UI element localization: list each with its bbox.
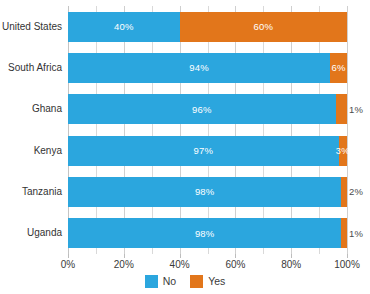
y-axis-label: Kenya [34, 136, 62, 166]
bar-segment-yes[interactable]: 2% [341, 177, 347, 207]
bar-row[interactable]: 94%6% [68, 53, 347, 83]
bar-segment-yes[interactable]: 60% [180, 12, 347, 42]
bar-row[interactable]: 97%3% [68, 136, 347, 166]
x-axis-tick-label: 60% [225, 259, 245, 270]
x-axis-tick [124, 254, 125, 258]
chart-legend: NoYes [0, 275, 370, 288]
bar-row[interactable]: 98%1% [68, 218, 347, 248]
bar-value-label: 1% [349, 229, 363, 239]
x-axis-tick-label: 0% [61, 259, 75, 270]
x-axis-tick [235, 254, 236, 258]
legend-item[interactable]: Yes [190, 275, 225, 288]
legend-swatch-icon [145, 275, 158, 288]
bar-value-label: 97% [194, 146, 214, 156]
plot-area: 40%60%94%6%96%1%97%3%98%2%98%1% [68, 6, 347, 254]
bar-value-label: 98% [195, 187, 215, 197]
bar-value-label: 98% [195, 229, 215, 239]
bar-value-label: 2% [349, 187, 363, 197]
x-axis-tick-label: 20% [114, 259, 134, 270]
bar-segment-no[interactable]: 96% [68, 94, 336, 124]
bar-segment-yes[interactable]: 6% [330, 53, 347, 83]
y-axis-label: Tanzania [22, 177, 62, 207]
bar-value-label: 3% [336, 146, 350, 156]
bar-segment-no[interactable]: 97% [68, 136, 339, 166]
y-axis-label: Uganda [27, 218, 62, 248]
bar-segment-no[interactable]: 98% [68, 218, 341, 248]
bar-row[interactable]: 40%60% [68, 12, 347, 42]
bar-row[interactable]: 96%1% [68, 94, 347, 124]
bar-value-label: 94% [189, 63, 209, 73]
y-axis-label: Ghana [32, 94, 62, 124]
x-axis: 0%20%40%60%80%100% [68, 254, 347, 274]
bar-segment-yes[interactable]: 1% [341, 218, 347, 248]
bar-segment-yes[interactable]: 3% [339, 136, 347, 166]
legend-label: Yes [208, 276, 225, 287]
x-axis-tick-label: 80% [281, 259, 301, 270]
bar-value-label: 40% [114, 22, 134, 32]
y-axis-category-labels: United StatesSouth AfricaGhanaKenyaTanza… [0, 6, 62, 254]
x-axis-tick-label: 40% [170, 259, 190, 270]
bar-segment-no[interactable]: 98% [68, 177, 341, 207]
legend-label: No [163, 276, 176, 287]
y-axis-label: United States [2, 12, 62, 42]
x-axis-tick [291, 254, 292, 258]
bar-segment-yes[interactable]: 1% [336, 94, 347, 124]
stacked-bar-chart: United StatesSouth AfricaGhanaKenyaTanza… [0, 0, 370, 294]
legend-item[interactable]: No [145, 275, 176, 288]
legend-swatch-icon [190, 275, 203, 288]
x-axis-tick [180, 254, 181, 258]
bar-segment-no[interactable]: 40% [68, 12, 180, 42]
bar-value-label: 1% [349, 105, 363, 115]
bar-rows: 40%60%94%6%96%1%97%3%98%2%98%1% [68, 6, 347, 254]
bar-value-label: 96% [192, 105, 212, 115]
bar-row[interactable]: 98%2% [68, 177, 347, 207]
bar-value-label: 60% [253, 22, 273, 32]
gridline-100 [347, 6, 348, 254]
x-axis-tick [68, 254, 69, 258]
y-axis-label: South Africa [8, 53, 62, 83]
x-axis-tick-label: 100% [334, 259, 360, 270]
bar-segment-no[interactable]: 94% [68, 53, 330, 83]
bar-value-label: 6% [332, 63, 346, 73]
x-axis-tick [347, 254, 348, 258]
